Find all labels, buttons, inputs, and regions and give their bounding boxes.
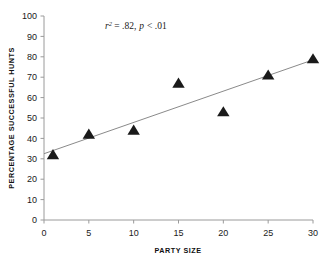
x-axis-tick-label: 20 (218, 228, 228, 238)
y-axis-tick-label: 40 (27, 134, 37, 144)
y-axis-tick-label: 70 (27, 72, 37, 82)
y-axis-tick-label: 10 (27, 195, 37, 205)
statistics-annotation: r2 = .82,p< .01 (105, 20, 167, 31)
y-axis-tick-label: 0 (32, 215, 37, 225)
scatter-plot-figure: 0102030405060708090100 051015202530 PERC… (0, 0, 333, 260)
y-axis-tick-label: 60 (27, 93, 37, 103)
y-axis-tick-label: 90 (27, 32, 37, 42)
y-axis-tick-label: 20 (27, 174, 37, 184)
x-axis-tick-label: 10 (129, 228, 139, 238)
x-axis-title: PARTY SIZE (154, 246, 201, 255)
x-axis-tick-label: 30 (308, 228, 318, 238)
chart-canvas: 0102030405060708090100 051015202530 PERC… (0, 0, 333, 260)
y-axis-tick-label: 100 (22, 11, 37, 21)
x-axis-tick-label: 5 (86, 228, 91, 238)
chart-background (0, 0, 333, 260)
y-axis-title: PERCENTAGE SUCCESSFUL HUNTS (7, 47, 16, 189)
y-axis-tick-label: 80 (27, 52, 37, 62)
x-axis-tick-label: 0 (41, 228, 46, 238)
x-axis-tick-label: 25 (263, 228, 273, 238)
y-axis-tick-label: 50 (27, 113, 37, 123)
x-axis-tick-label: 15 (173, 228, 183, 238)
y-axis-tick-label: 30 (27, 154, 37, 164)
